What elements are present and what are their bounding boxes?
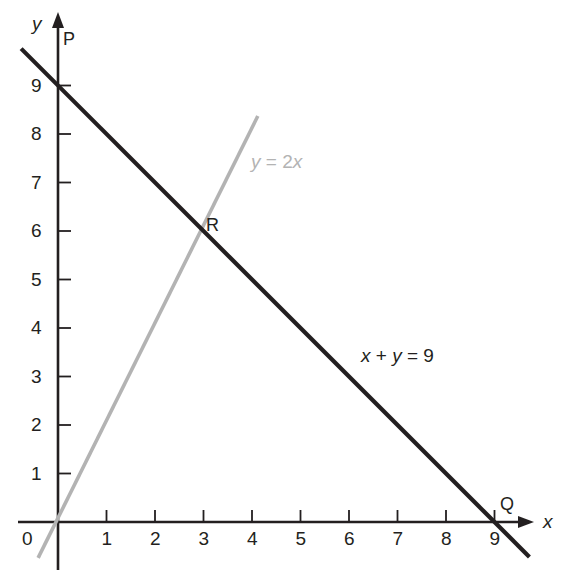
y-tick-label: 4	[31, 318, 42, 337]
equation-gray-operator: = 2	[261, 151, 293, 172]
series-line	[21, 49, 529, 557]
x-axis-group	[18, 516, 534, 528]
y-axis-ticks	[58, 86, 71, 474]
y-axis-label: y	[32, 14, 42, 33]
point-label-q: Q	[500, 495, 514, 513]
y-tick-label: 9	[31, 76, 42, 95]
equation-dark-plus: +	[371, 345, 393, 366]
equation-gray-var-x: x	[293, 151, 303, 172]
y-tick-label: 8	[31, 124, 42, 143]
equation-dark-var-x: x	[361, 345, 371, 366]
equation-label-x-plus-y-equals-9: x + y = 9	[361, 346, 434, 365]
y-tick-label: 1	[31, 464, 42, 483]
x-axis-ticks	[107, 510, 495, 522]
y-tick-label: 5	[31, 270, 42, 289]
series-line	[38, 116, 258, 558]
equation-dark-tail: = 9	[402, 345, 434, 366]
x-tick-label: 2	[150, 529, 161, 548]
y-tick-label: 7	[31, 173, 42, 192]
x-tick-label: 6	[344, 529, 355, 548]
x-tick-label: 5	[296, 529, 307, 548]
y-axis-group	[52, 12, 64, 570]
x-tick-label: 7	[393, 529, 404, 548]
coordinate-plane-svg	[0, 0, 565, 582]
x-axis-label: x	[543, 512, 553, 531]
y-axis-arrowhead	[52, 12, 64, 28]
equation-label-y-equals-2x: y = 2x	[251, 152, 302, 171]
series-lines-group	[21, 49, 529, 558]
x-tick-label: 9	[490, 529, 501, 548]
y-tick-label: 3	[31, 367, 42, 386]
equation-dark-var-y: y	[392, 345, 402, 366]
origin-label: 0	[22, 529, 33, 548]
y-tick-label: 2	[31, 415, 42, 434]
x-axis-arrowhead	[518, 516, 534, 528]
equation-gray-var-y: y	[251, 151, 261, 172]
y-tick-label: 6	[31, 221, 42, 240]
x-tick-label: 8	[441, 529, 452, 548]
x-tick-label: 4	[247, 529, 258, 548]
point-label-r: R	[206, 216, 219, 234]
x-tick-label: 1	[102, 529, 113, 548]
graph-figure: 123456789 123456789 0 x y P Q R y = 2x x…	[0, 0, 565, 582]
point-label-p: P	[63, 30, 75, 48]
x-tick-label: 3	[199, 529, 210, 548]
